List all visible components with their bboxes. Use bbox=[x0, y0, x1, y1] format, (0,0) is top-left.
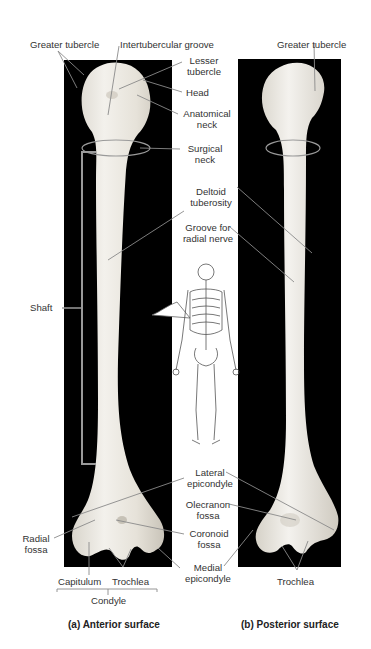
label-trochlea-a: Trochlea bbox=[112, 576, 149, 587]
label-lateral-epicondyle: Lateral epicondyle bbox=[184, 467, 236, 489]
label-anatomical-neck: Anatomical neck bbox=[178, 108, 236, 130]
label-radial-fossa: Radial fossa bbox=[20, 533, 52, 555]
caption-anterior: (a) Anterior surface bbox=[68, 619, 160, 630]
label-olecranon-fossa: Olecranon fossa bbox=[180, 499, 236, 521]
label-condyle: Condyle bbox=[91, 595, 126, 606]
label-deltoid-tuberosity: Deltoid tuberosity bbox=[186, 186, 236, 208]
label-surgical-neck: Surgical neck bbox=[182, 143, 228, 165]
label-coronoid-fossa: Coronoid fossa bbox=[186, 528, 232, 550]
label-intertubercular-groove: Intertubercular groove bbox=[120, 39, 214, 50]
caption-posterior: (b) Posterior surface bbox=[241, 619, 339, 630]
label-head: Head bbox=[186, 87, 209, 98]
label-greater-tubercle-b: Greater tubercle bbox=[277, 39, 346, 50]
label-capitulum: Capitulum bbox=[58, 576, 101, 587]
label-groove-radial-nerve: Groove for radial nerve bbox=[180, 222, 236, 244]
label-medial-epicondyle: Medial epicondyle bbox=[180, 562, 236, 584]
label-lesser-tubercle: Lesser tubercle bbox=[184, 55, 224, 77]
label-trochlea-b: Trochlea bbox=[277, 576, 314, 587]
humerus-figure: Greater tubercle Intertubercular groove … bbox=[0, 0, 371, 649]
label-shaft: Shaft bbox=[30, 302, 52, 313]
label-greater-tubercle-a: Greater tubercle bbox=[30, 39, 99, 50]
